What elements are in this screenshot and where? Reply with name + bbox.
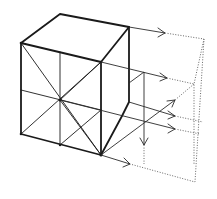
plane-outline: [130, 33, 204, 182]
plane-line-4: [175, 84, 194, 100]
corner-point-tl: [20, 42, 23, 45]
front-diag-upper-right: [60, 62, 101, 100]
arrow-line-top: [129, 27, 165, 33]
arrow-line-upper: [101, 62, 167, 78]
arrow-line-diag: [101, 100, 175, 155]
plane-line-3: [175, 129, 200, 134]
cube-outline: [21, 14, 129, 155]
corner-point-bl: [20, 133, 23, 136]
plane-line-1: [167, 78, 194, 84]
mid-bottom-point: [59, 144, 61, 146]
cube-projection-diagram: [0, 0, 217, 199]
cube-top-face: [21, 14, 129, 62]
arrow-line-mid-1: [129, 102, 175, 116]
projection-plane: [130, 33, 204, 182]
projection-arrows: [60, 27, 175, 167]
cube-back-right-edge: [101, 27, 129, 155]
plane-inner-edge: [194, 39, 204, 164]
back-connector: [129, 72, 144, 83]
